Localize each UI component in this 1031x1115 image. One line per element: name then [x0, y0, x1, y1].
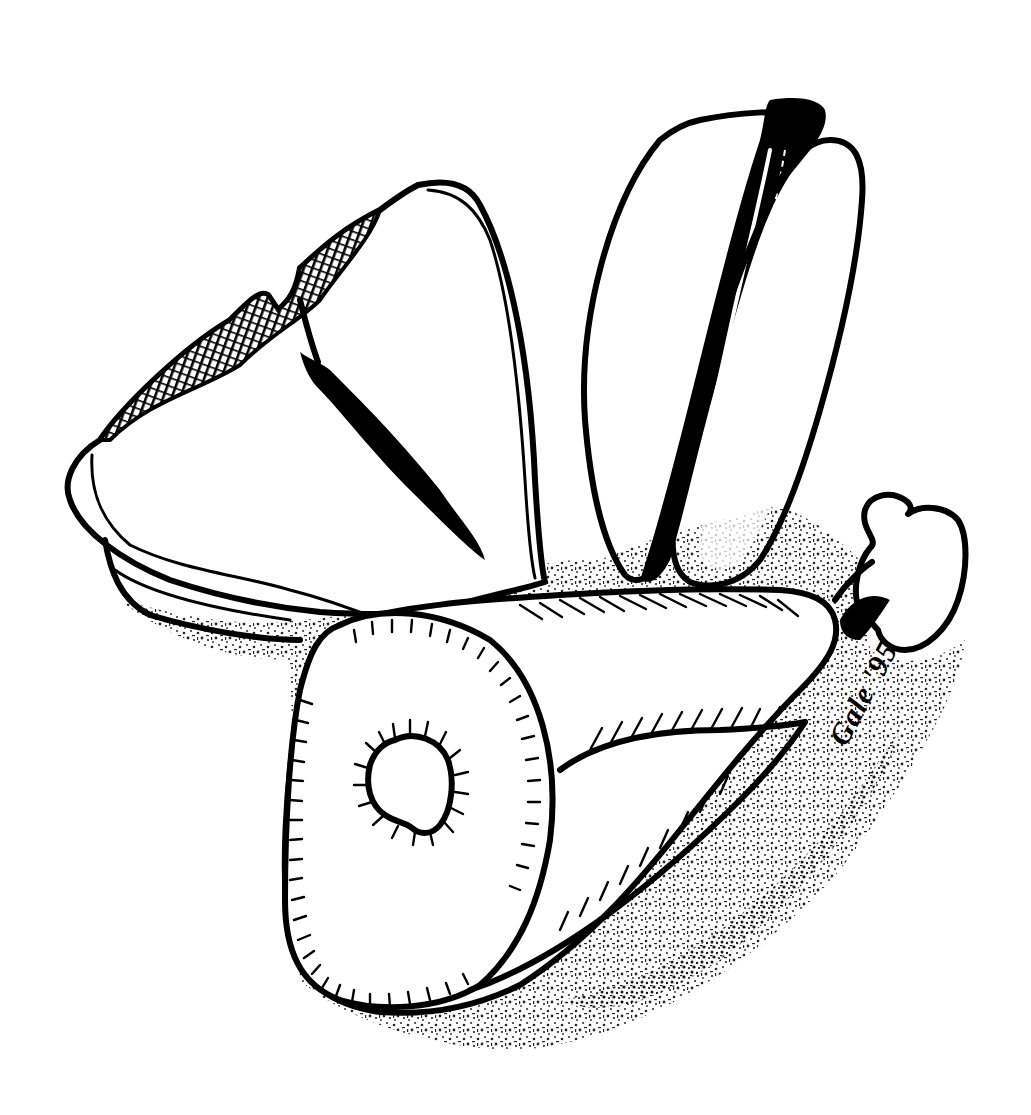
chops [584, 98, 862, 585]
t-bone-steak [68, 182, 545, 640]
meat-cuts-illustration [0, 0, 1031, 1115]
shank-bone-end [835, 495, 966, 650]
